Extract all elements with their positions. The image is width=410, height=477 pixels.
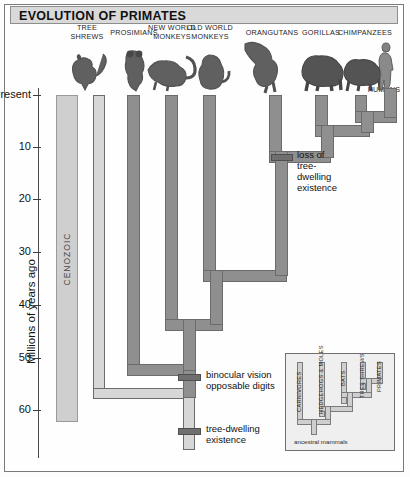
y-tick-60 bbox=[33, 410, 41, 411]
branch-prosimians bbox=[127, 95, 140, 373]
trait-mark-loss-of-tree-dwelling bbox=[271, 154, 293, 161]
branch-new-world-monkeys bbox=[165, 95, 178, 327]
y-tick-label-10: 10 bbox=[1, 140, 31, 152]
taxon-label-old-world-monkeys: OLD WORLD MONKEYS bbox=[184, 24, 236, 41]
page-title: EVOLUTION OF PRIMATES bbox=[19, 9, 186, 23]
y-tick-50 bbox=[33, 358, 41, 359]
y-tick-0 bbox=[33, 95, 41, 96]
inset-root-stem bbox=[311, 419, 317, 435]
figure-title-bar: EVOLUTION OF PRIMATES bbox=[10, 6, 398, 24]
inset-label-tree-shrews: TREE SHREWS bbox=[359, 353, 365, 398]
branch-shrew-primate-join bbox=[93, 388, 191, 399]
era-band-label: CENOZOIC bbox=[62, 232, 72, 285]
branch-ape-stem bbox=[275, 151, 288, 276]
y-tick-40 bbox=[33, 305, 41, 306]
y-tick-label-30: 30 bbox=[1, 245, 31, 257]
y-axis-line bbox=[38, 88, 39, 458]
new-world-monkey-silhouette bbox=[142, 48, 198, 92]
branch-humans bbox=[384, 88, 397, 118]
orangutan-silhouette bbox=[239, 36, 297, 94]
cladogram-plot: Millions of years ago Present 10 20 30 4… bbox=[5, 26, 404, 466]
inset-footer-label: ancestral mammals bbox=[294, 438, 348, 445]
old-world-monkey-silhouette bbox=[191, 46, 233, 92]
human-silhouette bbox=[373, 40, 401, 92]
y-tick-label-60: 60 bbox=[1, 403, 31, 415]
inset-join-bats-clade bbox=[341, 392, 372, 398]
y-tick-30 bbox=[33, 252, 41, 253]
y-tick-label-40: 40 bbox=[1, 298, 31, 310]
inset-label-primates: PRIMATES bbox=[376, 361, 382, 392]
branch-catarrhine-stem bbox=[210, 270, 223, 325]
inset-cladogram: CARNIVORES HEDGEHOGS & MOLES BATS TREE S… bbox=[285, 353, 395, 451]
branch-old-world-monkeys bbox=[203, 95, 216, 278]
y-axis-label: Millions of years ago bbox=[25, 259, 37, 364]
branch-tree-shrews bbox=[93, 95, 105, 397]
taxon-label-chimpanzees: CHIMPANZEES bbox=[335, 29, 395, 38]
y-tick-label-present: Present bbox=[0, 88, 31, 100]
branch-anthropoid-stem bbox=[183, 319, 196, 371]
y-tick-10 bbox=[33, 147, 41, 148]
inset-label-bats: BATS bbox=[340, 370, 346, 386]
tree-shrew-silhouette bbox=[63, 43, 109, 91]
y-tick-label-50: 50 bbox=[1, 351, 31, 363]
trait-label-loss-of-tree-dwelling: loss of tree- dwelling existence bbox=[297, 149, 387, 193]
inset-label-hedgehogs-moles: HEDGEHOGS & MOLES bbox=[318, 345, 324, 414]
y-tick-label-20: 20 bbox=[1, 192, 31, 204]
trait-mark-tree-dwelling bbox=[178, 428, 201, 435]
inset-label-carnivores: CARNIVORES bbox=[296, 372, 302, 413]
evolution-of-primates-figure: EVOLUTION OF PRIMATES Millions of years … bbox=[0, 0, 410, 477]
branch-chimphuman-stem bbox=[361, 111, 374, 133]
trait-mark-binocular-vision bbox=[178, 374, 201, 381]
y-tick-20 bbox=[33, 199, 41, 200]
era-band-cenozoic: CENOZOIC bbox=[56, 95, 78, 422]
